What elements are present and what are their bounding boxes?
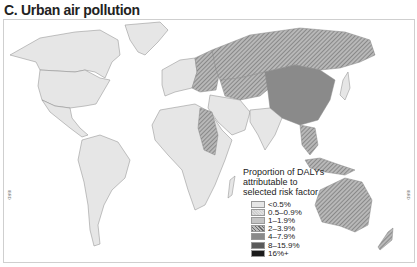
new-zealand [378, 228, 393, 250]
usa [38, 70, 110, 108]
legend-item: 8–15.9% [251, 241, 333, 249]
canada [10, 30, 120, 78]
western-europe [162, 58, 197, 96]
legend-swatch [251, 233, 265, 240]
legend-swatch [251, 250, 265, 257]
legend-label: 16%+ [268, 249, 289, 258]
southeast-asia [300, 125, 318, 155]
side-code-right: IBRD [406, 190, 411, 200]
map-legend: Proportion of DALYs attributable to sele… [243, 167, 333, 257]
legend-swatch [251, 201, 265, 208]
legend-title: Proportion of DALYs attributable to sele… [243, 167, 333, 197]
legend-swatch [251, 209, 265, 216]
legend-swatch [251, 225, 265, 232]
madagascar [228, 176, 235, 198]
world-map [0, 0, 417, 267]
south-america [78, 135, 130, 246]
india [250, 108, 282, 150]
legend-swatch [251, 217, 265, 224]
legend-item: 16%+ [251, 249, 333, 257]
legend-swatch [251, 242, 265, 249]
japan [340, 72, 350, 100]
greenland [125, 22, 168, 55]
side-code-left: IBRD [7, 190, 12, 200]
